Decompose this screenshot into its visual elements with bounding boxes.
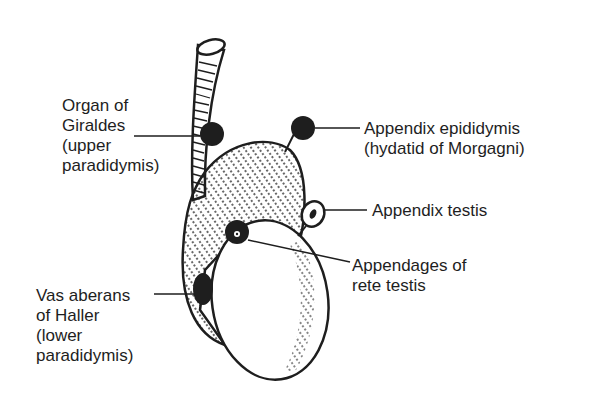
label-line: paradidymis) — [36, 346, 133, 366]
label-line: Giraldes — [62, 116, 159, 136]
appendix-epididymis-marker — [291, 116, 315, 140]
label-line: (lower — [36, 326, 133, 346]
organ-of-giraldes-marker — [200, 122, 224, 146]
vas-aberans-marker — [193, 273, 213, 305]
label-line: (upper — [62, 136, 159, 156]
label-line: Appendix epididymis — [364, 119, 525, 139]
label-appendix-testis: Appendix testis — [372, 201, 487, 221]
label-line: Appendages of — [352, 256, 466, 276]
diagram-canvas: Organ of Giraldes (upper paradidymis) Ap… — [0, 0, 593, 406]
label-line: Vas aberans — [36, 286, 133, 306]
label-organ-of-giraldes: Organ of Giraldes (upper paradidymis) — [62, 96, 159, 176]
label-appendages-rete-testis: Appendages of rete testis — [352, 256, 466, 296]
label-line: of Haller — [36, 306, 133, 326]
label-appendix-epididymis: Appendix epididymis (hydatid of Morgagni… — [364, 119, 525, 159]
label-line: Organ of — [62, 96, 159, 116]
appendages-rete-testis-marker — [225, 220, 249, 244]
label-line: Appendix testis — [372, 201, 487, 221]
label-vas-aberans: Vas aberans of Haller (lower paradidymis… — [36, 286, 133, 366]
label-line: rete testis — [352, 276, 466, 296]
label-line: paradidymis) — [62, 156, 159, 176]
label-line: (hydatid of Morgagni) — [364, 139, 525, 159]
